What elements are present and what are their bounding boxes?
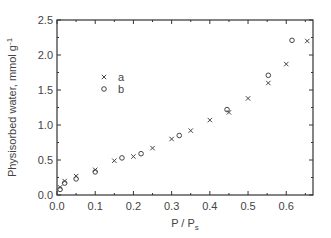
cross-marker-icon	[189, 128, 193, 132]
y-tick-label: 2.0	[38, 49, 53, 61]
circle-marker-icon	[120, 156, 125, 161]
cross-marker-icon	[150, 146, 154, 150]
axis-ticks: 0.00.10.20.30.40.50.60.00.51.01.52.02.5	[38, 14, 313, 212]
legend-item-a: a	[102, 71, 125, 83]
x-tick-label: 0.6	[279, 200, 294, 212]
circle-marker-icon	[102, 87, 107, 92]
cross-marker-icon	[112, 159, 116, 163]
series-b	[58, 38, 295, 192]
cross-marker-icon	[246, 96, 250, 100]
x-tick-label: 0.5	[240, 200, 255, 212]
cross-marker-icon	[169, 137, 173, 141]
circle-marker-icon	[225, 107, 230, 112]
circle-marker-icon	[74, 177, 79, 182]
y-tick-label: 1.0	[38, 119, 53, 131]
cross-marker-icon	[131, 154, 135, 158]
y-tick-label: 2.5	[38, 14, 53, 26]
legend-label: b	[118, 83, 124, 95]
legend: ab	[102, 71, 125, 95]
y-tick-label: 0.5	[38, 154, 53, 166]
circle-marker-icon	[290, 38, 295, 43]
legend-label: a	[118, 71, 125, 83]
svg-text:P / Ps: P / Ps	[171, 217, 199, 232]
cross-marker-icon	[208, 118, 212, 122]
legend-item-b: b	[102, 83, 124, 95]
cross-marker-icon	[102, 75, 106, 79]
circle-marker-icon	[266, 73, 271, 78]
cross-marker-icon	[266, 81, 270, 85]
x-tick-label: 0.2	[126, 200, 141, 212]
y-tick-label: 1.5	[38, 84, 53, 96]
x-tick-label: 0.1	[88, 200, 103, 212]
plot-frame	[57, 20, 313, 195]
chart: Physisorbed water, mmol g-1 P / Ps 0.00.…	[0, 0, 331, 238]
svg-text:Physisorbed water, mmol g-1: Physisorbed water, mmol g-1	[5, 37, 18, 177]
x-tick-label: 0.3	[164, 200, 179, 212]
y-tick-label: 0.0	[38, 189, 53, 201]
cross-marker-icon	[284, 62, 288, 66]
x-axis-title: P / Ps	[171, 217, 199, 232]
circle-marker-icon	[139, 151, 144, 156]
x-tick-label: 0.0	[49, 200, 64, 212]
circle-marker-icon	[177, 133, 182, 138]
series-a	[58, 39, 310, 190]
cross-marker-icon	[305, 39, 309, 43]
y-axis-title: Physisorbed water, mmol g-1	[5, 37, 18, 177]
data-points	[58, 38, 310, 192]
x-tick-label: 0.4	[202, 200, 217, 212]
